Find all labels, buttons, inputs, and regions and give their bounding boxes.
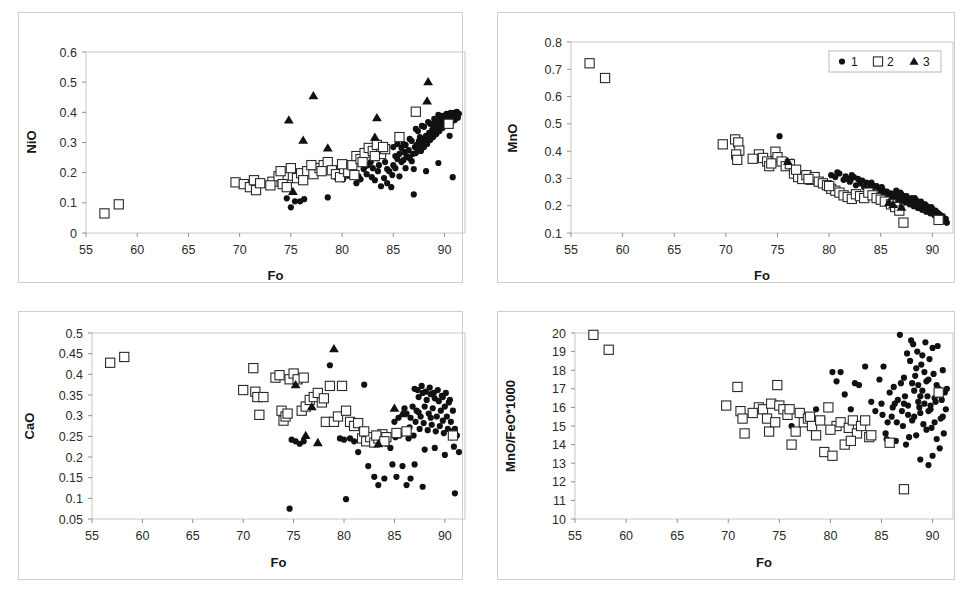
data-point-circle [411, 461, 417, 467]
data-point-square [846, 436, 855, 445]
data-point-square [934, 388, 943, 397]
data-point-circle [288, 204, 294, 210]
data-point-circle [442, 452, 448, 458]
nio-xtick-label: 70 [233, 243, 247, 257]
data-point-triangle [323, 143, 333, 151]
data-point-triangle [301, 431, 311, 439]
data-point-triangle [370, 132, 380, 140]
data-point-square [256, 179, 265, 188]
mno_feo-ytick-label: 12 [552, 475, 566, 489]
data-point-circle [393, 474, 399, 480]
mno_feo-ytick-label: 20 [552, 327, 566, 341]
data-point-circle [388, 184, 394, 190]
data-point-circle [911, 414, 917, 420]
mno-xtick-label: 85 [874, 243, 888, 257]
data-point-circle [301, 196, 307, 202]
mno-xtick-label: 70 [719, 243, 733, 257]
mno-y-axis-label: MnO [505, 124, 520, 153]
mno_feo-x-axis-label: Fo [756, 555, 772, 570]
mno-xtick-label: 80 [822, 243, 836, 257]
data-point-square [934, 215, 943, 224]
data-point-square [767, 159, 776, 168]
data-point-triangle [313, 438, 323, 446]
data-point-square [299, 373, 308, 382]
data-point-square [114, 200, 123, 209]
panel-nio-plot: 00.10.20.30.40.50.65560657075808590NiOFo [0, 0, 485, 301]
data-point-circle [396, 173, 402, 179]
data-point-circle [389, 461, 395, 467]
data-point-circle [898, 380, 904, 386]
data-point-square [360, 427, 369, 436]
data-point-circle [913, 432, 919, 438]
data-point-square [307, 161, 316, 170]
data-point-triangle [308, 91, 318, 99]
data-point-circle [425, 427, 431, 433]
data-point-circle [402, 165, 408, 171]
panel-mno: 0.10.20.30.40.50.60.70.85560657075808590… [485, 0, 973, 301]
data-point-circle [435, 112, 441, 118]
data-point-circle [919, 388, 925, 394]
data-point-square [319, 394, 328, 403]
data-point-circle [378, 183, 384, 189]
data-point-circle [454, 114, 460, 120]
data-point-circle [419, 383, 425, 389]
cao-ytick-label: 0.3 [66, 409, 83, 423]
cao-ytick-label: 0.4 [66, 368, 83, 382]
data-point-square [718, 140, 727, 149]
data-point-square [899, 218, 908, 227]
data-point-circle [868, 179, 874, 185]
data-point-circle [893, 188, 899, 194]
data-point-circle [421, 420, 427, 426]
data-point-circle [351, 438, 357, 444]
nio-xtick-label: 85 [386, 243, 400, 257]
data-point-square [282, 183, 291, 192]
data-point-circle [899, 408, 905, 414]
data-point-square [255, 410, 264, 419]
mno-xtick-label: 75 [771, 243, 785, 257]
data-point-square [378, 142, 387, 151]
cao-y-axis-label: CaO [22, 413, 37, 440]
mno_feo-series-1 [774, 332, 950, 468]
data-point-square [825, 181, 834, 190]
data-point-circle [944, 386, 950, 392]
mno-x-axis-label: Fo [754, 268, 770, 283]
data-point-circle [364, 171, 370, 177]
data-point-circle [407, 136, 413, 142]
data-point-square [444, 119, 453, 128]
data-point-circle [448, 419, 454, 425]
data-point-circle [925, 408, 931, 414]
data-point-circle [907, 358, 913, 364]
nio-ytick-label: 0.6 [60, 46, 77, 60]
data-point-circle [382, 159, 388, 165]
data-point-circle [838, 369, 844, 375]
data-point-circle [909, 380, 915, 386]
cao-ytick-label: 0.35 [59, 389, 83, 403]
cao-ytick-label: 0.25 [59, 430, 83, 444]
data-point-circle [381, 475, 387, 481]
data-point-circle [417, 426, 423, 432]
data-point-square [773, 380, 782, 389]
data-point-square [748, 408, 757, 417]
data-point-circle [450, 408, 456, 414]
nio-xtick-label: 65 [181, 243, 195, 257]
panel-mno-plot: 0.10.20.30.40.50.60.70.85560657075808590… [485, 0, 973, 301]
data-point-circle [872, 408, 878, 414]
data-point-circle [407, 475, 413, 481]
data-point-square [325, 381, 334, 390]
data-point-circle [405, 154, 411, 160]
data-point-square [885, 438, 894, 447]
data-point-triangle [298, 135, 308, 143]
mno_feo-ytick-label: 19 [552, 345, 566, 359]
data-point-circle [934, 436, 940, 442]
data-point-square [283, 409, 292, 418]
panel-cao-plot: 0.050.10.150.20.250.30.350.40.450.555606… [0, 301, 485, 602]
data-point-circle [435, 160, 441, 166]
data-point-circle [903, 442, 909, 448]
data-point-circle [922, 339, 928, 345]
nio-ytick-label: 0.3 [60, 136, 77, 150]
mno_feo-series-2 [589, 330, 944, 494]
data-point-triangle [284, 115, 294, 123]
data-point-circle [327, 362, 333, 368]
nio-ytick-label: 0.5 [60, 76, 77, 90]
data-point-circle [427, 384, 433, 390]
